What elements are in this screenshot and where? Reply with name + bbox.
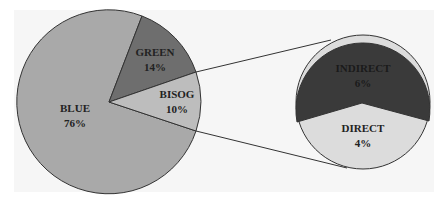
value-indirect: 6%	[355, 77, 372, 89]
label-bisog: BISOG	[160, 88, 195, 100]
value-green: 14%	[144, 61, 166, 73]
label-green: GREEN	[135, 46, 174, 58]
value-blue: 76%	[64, 117, 86, 129]
secondary-pie: INDIRECT 6% DIRECT 4%	[296, 35, 430, 169]
value-bisog: 10%	[166, 103, 188, 115]
label-direct: DIRECT	[342, 122, 385, 134]
value-direct: 4%	[355, 137, 372, 149]
label-indirect: INDIRECT	[335, 62, 391, 74]
main-pie: BLUE 76% GREEN 14% BISOG 10%	[17, 10, 201, 194]
label-blue: BLUE	[60, 102, 90, 114]
pie-of-pie-chart: BLUE 76% GREEN 14% BISOG 10% INDIRECT 6%…	[0, 0, 447, 202]
